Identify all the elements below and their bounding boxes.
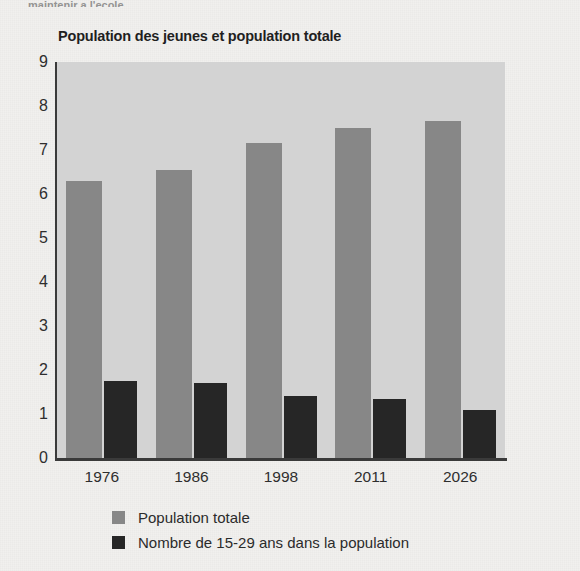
y-axis-tick-0: 0 bbox=[10, 450, 48, 466]
legend-label-jeunes-15-29: Nombre de 15-29 ans dans la population bbox=[138, 535, 409, 551]
bar-jeunes-15-29-1998 bbox=[284, 396, 317, 458]
x-axis-tick-2011: 2011 bbox=[326, 468, 416, 486]
y-axis-tick-9: 9 bbox=[10, 54, 48, 70]
bar-jeunes-15-29-2011 bbox=[373, 399, 406, 458]
legend-item-jeunes-15-29: Nombre de 15-29 ans dans la population bbox=[112, 530, 552, 555]
y-axis-tick-8: 8 bbox=[10, 98, 48, 114]
y-axis-tick-7: 7 bbox=[10, 142, 48, 158]
y-axis-tick-5: 5 bbox=[10, 230, 48, 246]
y-axis-tick-2: 2 bbox=[10, 362, 48, 378]
legend-label-population-totale: Population totale bbox=[138, 510, 250, 526]
y-axis-tick-6: 6 bbox=[10, 186, 48, 202]
bar-jeunes-15-29-1976 bbox=[104, 381, 137, 458]
bar-population-totale-1986 bbox=[156, 170, 192, 458]
bar-jeunes-15-29-2026 bbox=[463, 410, 496, 458]
bar-population-totale-1998 bbox=[246, 143, 282, 458]
y-axis-tick-4: 4 bbox=[10, 274, 48, 290]
x-axis-tick-1986: 1986 bbox=[146, 468, 236, 486]
x-axis-tick-1976: 1976 bbox=[57, 468, 147, 486]
y-axis-tick-labels: 9876543210 bbox=[0, 0, 48, 571]
bar-chart: 9876543210 19761986199820112026 bbox=[0, 0, 580, 571]
bar-population-totale-2011 bbox=[335, 128, 371, 458]
bar-jeunes-15-29-1986 bbox=[194, 383, 227, 458]
legend-swatch-icon-population-totale bbox=[112, 511, 125, 524]
legend-swatch-icon-jeunes-15-29 bbox=[112, 536, 125, 549]
y-axis-tick-3: 3 bbox=[10, 318, 48, 334]
chart-legend: Population totale Nombre de 15-29 ans da… bbox=[112, 505, 552, 555]
legend-item-population-totale: Population totale bbox=[112, 505, 552, 530]
bar-population-totale-2026 bbox=[425, 121, 461, 458]
bar-population-totale-1976 bbox=[66, 181, 102, 458]
x-axis-line bbox=[55, 458, 507, 461]
x-axis-tick-2026: 2026 bbox=[415, 468, 505, 486]
x-axis-tick-1998: 1998 bbox=[236, 468, 326, 486]
y-axis-tick-1: 1 bbox=[10, 406, 48, 422]
y-axis-line bbox=[55, 62, 57, 460]
